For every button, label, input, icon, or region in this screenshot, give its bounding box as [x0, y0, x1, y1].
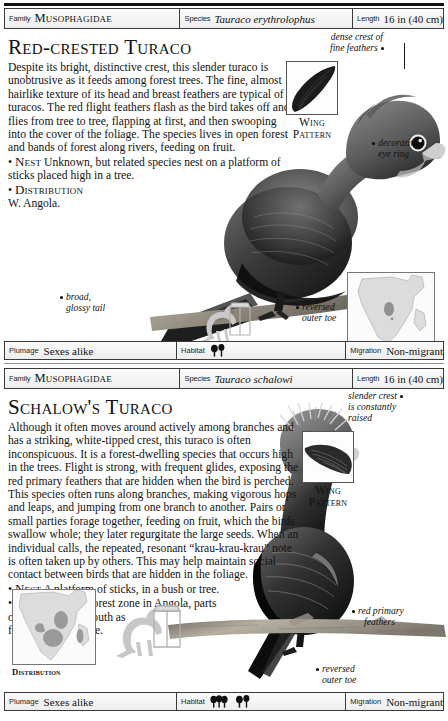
footer-habitat-key: Habitat [181, 697, 205, 706]
annotation-outer-toe-line-2: outer toe [322, 674, 356, 685]
header-length-value: 16 in (40 cm) [383, 373, 443, 385]
header-family-key: Family [9, 14, 30, 23]
footer-migration-key: Migration [350, 697, 381, 706]
header-family-value: Musophagidae [34, 371, 112, 386]
footer-migration-cell: Migration Non-migrant [345, 693, 443, 710]
header-species-cell: Species Tauraco schalowi [179, 369, 352, 388]
footer-migration-value: Non-migrant [386, 345, 443, 357]
footer-migration-cell: Migration Non-migrant [345, 342, 443, 359]
distribution-map-africa [13, 590, 96, 665]
annotation-eye-ring-line-2: eye ring [378, 148, 419, 159]
footer-plumage-value: Sexes alike [44, 696, 94, 708]
distribution-map-box [12, 589, 96, 665]
description-paragraph: Despite its bright, distinctive crest, t… [8, 61, 290, 155]
header-species-key: Species [184, 374, 210, 383]
annotation-outer-toe-line-1: reversed [296, 301, 336, 312]
annotation-outer-toe-line-1: reversed [316, 663, 356, 674]
tree-pair-icon [235, 695, 251, 708]
entry-description: Despite its bright, distinctive crest, t… [8, 61, 290, 210]
annotation-dot [316, 668, 319, 671]
wing-pattern-caption: Wing Pattern [280, 116, 344, 140]
header-family-cell: Family Musophagidae [5, 9, 179, 28]
wing-caption-line-1: Wing [296, 484, 360, 496]
footer-plumage-cell: Plumage Sexes alike [5, 342, 176, 359]
annotation-tail-line-2: glossy tail [66, 302, 105, 313]
annotation-primaries: red primary feathers [352, 605, 404, 627]
wing-pattern-illustration [287, 62, 338, 115]
footer-habitat-cell: Habitat [176, 693, 345, 710]
forest-icon [210, 695, 228, 708]
wing-pattern-box [286, 61, 338, 115]
header-length-key: Length [357, 374, 379, 383]
annotation-primaries-line-2: feathers [364, 616, 404, 627]
species-entry-red-crested-turaco: Family Musophagidae Species Tauraco eryt… [0, 8, 448, 363]
entry-footer-bar: Plumage Sexes alike Habitat [4, 692, 444, 711]
annotation-crest: slender crest is constantly raised [348, 390, 403, 423]
header-length-cell: Length 16 in (40 cm) [352, 9, 443, 28]
footer-habitat-cell: Habitat [176, 342, 345, 359]
footer-plumage-key: Plumage [9, 346, 39, 355]
distribution-map-africa [348, 273, 435, 348]
footer-migration-key: Migration [350, 346, 381, 355]
annotation-dot [400, 395, 403, 398]
distribution-line: • Distribution [8, 183, 290, 197]
distribution-text: W. Angola. [8, 197, 290, 210]
wing-caption-line-2: Pattern [280, 128, 344, 140]
page-title-red-crested-turaco: Red-crested Turaco [8, 35, 191, 60]
distribution-map-caption: Distribution [12, 667, 61, 677]
annotation-primaries-line-1: red primary [352, 605, 404, 616]
header-family-key: Family [9, 374, 30, 383]
annotation-eye-ring-line-1: decorative [372, 137, 419, 148]
annotation-crest-line-1: dense crest of [330, 31, 384, 42]
annotation-tail-line-1: broad, [60, 291, 105, 302]
entry-body: Schalow's Turaco Although it often moves… [0, 389, 448, 689]
annotation-dot [60, 296, 63, 299]
description-paragraph: Although it often moves around actively … [8, 421, 300, 582]
tree-pair-icon [210, 344, 226, 357]
entry-header-bar: Family Musophagidae Species Tauraco eryt… [4, 8, 444, 29]
nest-text: Unknown, but related species nest on a p… [8, 156, 281, 182]
header-species-key: Species [184, 14, 210, 23]
footer-habitat-key: Habitat [181, 346, 205, 355]
annotation-tail: broad, glossy tail [60, 291, 105, 313]
header-family-value: Musophagidae [34, 11, 112, 26]
entry-separator [4, 363, 444, 364]
nest-line: • Nest Unknown, but related species nest… [8, 155, 290, 183]
annotation-crest-line-1: slender crest [348, 390, 403, 401]
nest-label: Nest [15, 154, 41, 169]
footer-plumage-value: Sexes alike [44, 345, 94, 357]
bullet-glyph: • [8, 156, 15, 169]
annotation-dot [372, 142, 375, 145]
page-title-schalows-turaco: Schalow's Turaco [8, 395, 173, 420]
footer-migration-value: Non-migrant [386, 696, 443, 708]
entry-header-bar: Family Musophagidae Species Tauraco scha… [4, 368, 444, 389]
bird-and-book-icon [112, 595, 184, 659]
header-species-value: Tauraco schalowi [214, 373, 292, 385]
top-rule [4, 3, 444, 6]
annotation-crest-line-3: raised [348, 412, 403, 423]
annotation-outer-toe: reversed outer toe [296, 301, 336, 323]
wing-caption-line-2: Pattern [296, 496, 360, 508]
annotation-eye-ring: decorative eye ring [372, 137, 419, 159]
header-species-cell: Species Tauraco erythrolophus [179, 9, 352, 28]
bird-and-book-icon [196, 295, 254, 343]
annotation-crest: dense crest of fine feathers [330, 31, 384, 53]
wing-pattern-caption: Wing Pattern [296, 484, 360, 508]
species-entry-schalows-turaco: Family Musophagidae Species Tauraco scha… [0, 368, 448, 716]
wing-caption-line-1: Wing [280, 116, 344, 128]
entry-body: Red-crested Turaco Despite its bright, d… [0, 29, 448, 339]
annotation-dot [381, 47, 384, 50]
field-guide-page: Family Musophagidae Species Tauraco eryt… [0, 0, 448, 721]
distribution-map-box [347, 272, 435, 348]
header-length-cell: Length 16 in (40 cm) [352, 369, 443, 388]
habitat-icon-group [210, 342, 226, 359]
annotation-dot [296, 306, 299, 309]
annotation-dot [352, 610, 355, 613]
habitat-icon-group [210, 693, 251, 710]
footer-plumage-key: Plumage [9, 697, 39, 706]
entry-footer-bar: Plumage Sexes alike Habitat Migration No… [4, 341, 444, 360]
header-length-value: 16 in (40 cm) [383, 13, 443, 25]
annotation-crest-line-2: fine feathers [330, 42, 384, 53]
annotation-crest-line-2: is constantly [348, 401, 403, 412]
header-family-cell: Family Musophagidae [5, 369, 179, 388]
